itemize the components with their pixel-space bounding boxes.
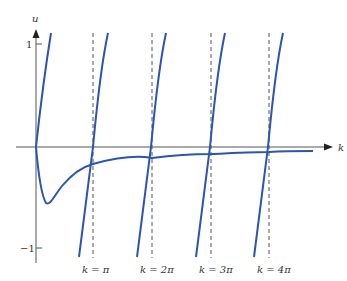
y-axis-label: u <box>32 13 38 24</box>
y-axis-arrow-icon <box>33 29 40 38</box>
branch-0 <box>36 33 51 147</box>
marker-label-4pi: k = 4π <box>257 264 291 275</box>
marker-label-pi: k = π <box>82 264 110 275</box>
x-axis-arrow-icon <box>324 144 333 151</box>
y-tick-label-1: 1 <box>26 39 32 50</box>
marker-label-2pi: k = 2π <box>140 264 174 275</box>
decaying-curve <box>36 147 313 204</box>
chart: u k 1 −1 k = π k = 2π k = 3π k = 4π <box>0 0 347 281</box>
marker-label-3pi: k = 3π <box>199 264 233 275</box>
y-tick-label-neg1: −1 <box>20 243 35 254</box>
x-axis-label: k <box>338 142 344 153</box>
